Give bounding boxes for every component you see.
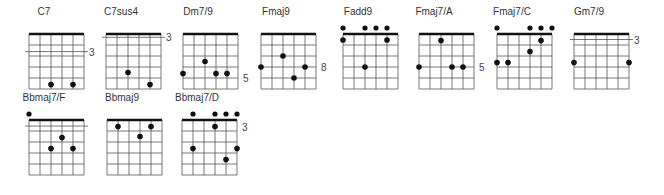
finger-dot — [291, 75, 297, 81]
finger-dot — [115, 124, 121, 130]
fretboard-grid — [472, 22, 557, 97]
finger-dot — [224, 71, 230, 77]
chord-name: C7 — [4, 6, 84, 17]
fretboard-grid: 3 — [81, 22, 166, 97]
chord-diagram: C7sus43 — [81, 6, 161, 98]
fretboard-grid: 5 — [394, 22, 479, 97]
finger-dot — [70, 82, 76, 88]
finger-dot — [48, 82, 54, 88]
finger-dot — [59, 135, 65, 141]
finger-dot — [180, 71, 186, 77]
chord-diagram: Fmaj98 — [236, 6, 316, 98]
fret-number-label: 3 — [634, 35, 640, 46]
finger-dot — [302, 64, 308, 70]
chord-name: Fmaj7/A — [394, 6, 474, 17]
fretboard-grid: 5 — [158, 22, 243, 97]
finger-dot — [280, 53, 286, 59]
fret-number-label: 3 — [242, 122, 248, 133]
chord-diagram: Dm7/95 — [158, 6, 238, 98]
finger-dot — [494, 60, 500, 66]
open-string-dot — [384, 25, 389, 30]
finger-dot — [70, 146, 76, 152]
chord-name: Gm7/9 — [549, 6, 629, 17]
finger-dot — [125, 70, 131, 76]
chord-diagram: Fmaj7/C — [472, 6, 552, 98]
fretboard-grid: 3 — [4, 22, 89, 97]
finger-dot — [148, 124, 154, 130]
fretboard-grid — [82, 108, 167, 183]
finger-dot — [190, 146, 196, 152]
chord-diagram: Fadd9 — [318, 6, 398, 98]
finger-dot — [538, 38, 544, 44]
chord-name: Bbmaj7/D — [157, 92, 237, 103]
fretboard-grid: 8 — [236, 22, 321, 97]
finger-dot — [213, 71, 219, 77]
open-string-dot — [212, 111, 217, 116]
finger-dot — [460, 64, 466, 70]
chord-name: Dm7/9 — [158, 6, 238, 17]
open-string-dot — [340, 25, 345, 30]
finger-dot — [223, 157, 229, 163]
finger-dot — [137, 134, 143, 140]
finger-dot — [48, 146, 54, 152]
open-string-dot — [538, 25, 543, 30]
fretboard-grid — [4, 108, 89, 183]
open-string-dot — [26, 111, 31, 116]
chord-name: C7sus4 — [81, 6, 161, 17]
open-string-dot — [373, 25, 378, 30]
finger-dot — [234, 146, 240, 152]
open-string-dot — [223, 111, 228, 116]
chord-diagram: Bbmaj9 — [82, 92, 162, 184]
finger-dot — [626, 60, 632, 66]
finger-dot — [449, 64, 455, 70]
finger-dot — [571, 60, 577, 66]
open-string-dot — [362, 25, 367, 30]
open-string-dot — [494, 25, 499, 30]
finger-dot — [527, 49, 533, 55]
chord-diagram: Bbmaj7/D3 — [157, 92, 237, 184]
chord-diagram: Fmaj7/A5 — [394, 6, 474, 98]
finger-dot — [340, 37, 346, 43]
open-string-dot — [190, 111, 195, 116]
chord-name: Fadd9 — [318, 6, 398, 17]
chord-name: Bbmaj7/F — [4, 92, 84, 103]
finger-dot — [505, 60, 511, 66]
finger-dot — [202, 59, 208, 65]
finger-dot — [258, 64, 264, 70]
finger-dot — [362, 64, 368, 70]
chord-name: Bbmaj9 — [82, 92, 162, 103]
finger-dot — [384, 37, 390, 43]
chord-diagram: Bbmaj7/F — [4, 92, 84, 184]
open-string-dot — [527, 25, 532, 30]
chord-name: Fmaj9 — [236, 6, 316, 17]
finger-dot — [212, 124, 218, 130]
open-string-dot — [234, 111, 239, 116]
fretboard-grid: 3 — [157, 108, 242, 183]
chord-diagram: C73 — [4, 6, 84, 98]
chord-name: Fmaj7/C — [472, 6, 552, 17]
finger-dot — [147, 82, 153, 88]
fretboard-grid: 3 — [549, 22, 634, 97]
finger-dot — [416, 64, 422, 70]
chord-diagram: Gm7/93 — [549, 6, 629, 98]
fretboard-grid — [318, 22, 403, 97]
finger-dot — [438, 38, 444, 44]
